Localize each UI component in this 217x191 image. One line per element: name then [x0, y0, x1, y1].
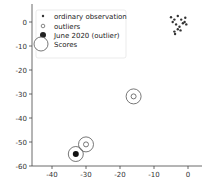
legend-marker-scores: [34, 37, 48, 51]
y-tick-label: 0: [23, 19, 27, 27]
ordinary-observation-point: [175, 23, 177, 25]
score-circle: [126, 89, 141, 104]
ordinary-observation-point: [170, 16, 172, 18]
legend: ordinary observationoutliersJune 2020 (o…: [34, 10, 127, 58]
score-circle: [79, 137, 94, 152]
ordinary-observation-point: [174, 33, 176, 35]
y-tick-label: -40: [16, 115, 27, 123]
ordinary-observation-point: [180, 18, 182, 20]
legend-label: Scores: [54, 41, 78, 49]
legend-label: outliers: [54, 23, 81, 31]
ordinary-observation-point: [172, 21, 174, 23]
legend-label: ordinary observation: [54, 13, 127, 21]
y-tick-label: -30: [16, 91, 27, 99]
x-tick-label: 0: [186, 171, 190, 179]
x-tick-label: -30: [80, 171, 91, 179]
x-tick-label: -10: [148, 171, 159, 179]
outlier-point: [84, 142, 89, 147]
ordinary-observation-point: [179, 29, 181, 31]
x-tick-label: -20: [114, 171, 125, 179]
outlier-point: [131, 94, 136, 99]
legend-marker-ordinary: [42, 15, 44, 17]
june-2020-outlier-point: [73, 151, 79, 157]
x-tick-label: -40: [46, 171, 57, 179]
y-tick-label: -50: [16, 139, 27, 147]
ordinary-observation-point: [184, 16, 186, 18]
y-tick-label: -20: [16, 67, 27, 75]
ordinary-observation-point: [185, 23, 187, 25]
legend-label: June 2020 (outlier): [53, 32, 120, 40]
ordinary-observation-point: [173, 18, 175, 20]
ordinary-observation-point: [178, 26, 180, 28]
ordinary-observation-point: [177, 28, 179, 30]
y-tick-label: -10: [16, 43, 27, 51]
y-tick-label: -60: [16, 163, 27, 171]
ordinary-observation-point: [182, 22, 184, 24]
scatter-chart: 0-10-20-30-40-50-60-40-30-20-100 ordinar…: [0, 0, 217, 191]
ordinary-observation-point: [177, 15, 179, 17]
ordinary-observation-point: [173, 30, 175, 32]
